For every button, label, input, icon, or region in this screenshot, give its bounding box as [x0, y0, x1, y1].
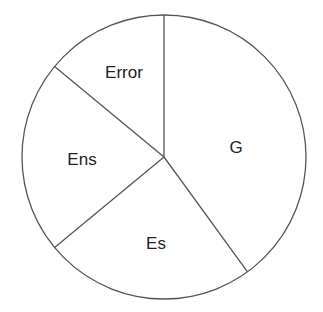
slice-label-es: Es	[146, 234, 166, 253]
slice-label-ens: Ens	[67, 150, 96, 169]
slice-label-g: G	[229, 138, 242, 157]
slice-label-error: Error	[105, 63, 143, 82]
pie-chart: G Es Ens Error	[0, 0, 323, 312]
slice-divider-es	[164, 157, 248, 272]
